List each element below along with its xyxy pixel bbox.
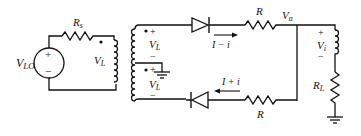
wire <box>135 99 186 101</box>
diode-top <box>192 17 209 33</box>
sec-top-vl-label: VL <box>149 38 161 52</box>
polarity-dot <box>144 29 147 32</box>
current-arrow-left-icon <box>214 89 240 94</box>
rl-resistor <box>331 72 339 117</box>
r-bottom-label: R <box>256 108 264 120</box>
vlo-label: VLO <box>16 56 35 71</box>
wire <box>135 25 186 29</box>
lo-source: + − <box>34 48 64 78</box>
rs-resistor <box>62 32 114 40</box>
diode-bottom <box>191 92 208 108</box>
ground-icon <box>154 72 170 78</box>
top-current-label: I − i <box>211 39 230 50</box>
plus-sign: + <box>318 27 324 38</box>
wire <box>49 78 116 90</box>
source-minus-sign: − <box>45 65 51 77</box>
polarity-dot <box>144 68 147 71</box>
rs-label: Rs <box>72 16 83 30</box>
minus-sign: − <box>150 51 156 62</box>
wire <box>49 36 62 48</box>
center-tap-wire <box>135 63 162 72</box>
ground-icon <box>327 117 343 123</box>
resistor-bottom <box>245 96 297 104</box>
va-label: Va <box>282 9 293 23</box>
plus-sign: + <box>150 64 156 75</box>
rl-label: RL <box>312 79 325 93</box>
primary-coil <box>114 40 118 82</box>
r-top-label: R <box>255 5 263 17</box>
plus-sign: + <box>150 26 156 37</box>
circuit-diagram: + − VLO Rs VL + VL − + VL − R I − i Va <box>0 0 361 136</box>
bottom-current-label: I + i <box>221 76 240 87</box>
minus-sign: − <box>318 51 324 62</box>
polarity-dot <box>99 40 102 43</box>
vi-inductor <box>335 30 339 72</box>
current-arrow-right-icon <box>214 33 238 38</box>
source-plus-sign: + <box>45 48 51 60</box>
secondary-coil <box>132 29 136 101</box>
minus-sign: − <box>150 90 156 101</box>
primary-vl-label: VL <box>94 54 106 68</box>
